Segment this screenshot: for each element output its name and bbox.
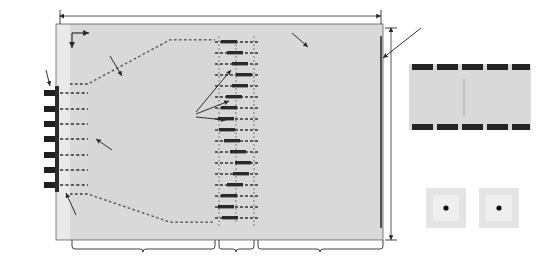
dimension-vertical — [385, 28, 397, 240]
phase-inverter-inset — [409, 64, 531, 130]
dimension-horizontal — [60, 10, 381, 24]
leader-connector — [46, 70, 50, 86]
leader-shorted-terminal — [383, 28, 421, 58]
figure-canvas — [0, 0, 541, 264]
antenna-layout-drawing — [0, 0, 541, 264]
beam-port-connectors — [44, 86, 59, 192]
binary-unit-inset — [426, 188, 519, 228]
section-brackets — [72, 240, 383, 252]
binary-unit-on — [426, 188, 466, 228]
binary-unit-off — [479, 188, 519, 228]
